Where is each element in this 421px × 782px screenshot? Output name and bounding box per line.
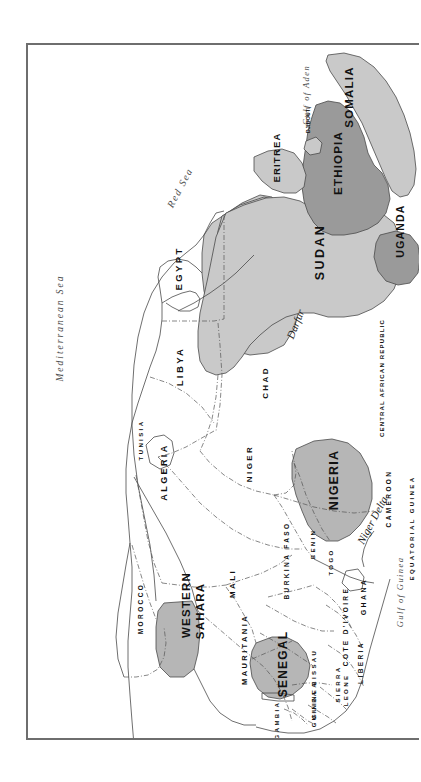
western-sahara-region [156, 601, 200, 677]
niger-river [362, 531, 374, 567]
africa-map-svg: .cl{stroke:#4a4a4a;stroke-width:0.8;} .d… [28, 45, 419, 740]
border-niger-mali [136, 475, 162, 583]
border-chad-sudan [200, 375, 218, 451]
border-burkina-ghana [266, 605, 334, 631]
border-guineabissau [284, 709, 308, 725]
mauritania-coast [194, 669, 256, 725]
border-mali-burkina [226, 587, 256, 643]
red-sea-coast [162, 291, 200, 311]
border-niger-nigeria [158, 457, 302, 549]
cameroon-coast [314, 559, 374, 583]
equatorial-guinea-shape [342, 569, 364, 591]
border-niger-benin [226, 555, 292, 585]
border-libya-algeria [150, 377, 214, 423]
border-niger-burkina [162, 583, 226, 587]
border-liberia-cotedivoire [320, 687, 348, 711]
map-canvas: .cl{stroke:#4a4a4a;stroke-width:0.8;} .d… [28, 45, 419, 740]
tunisia-shape [146, 435, 174, 469]
eritrea-region [254, 149, 306, 193]
border-guinea-sierraleone [292, 709, 316, 725]
nigeria-region [292, 439, 372, 541]
border-chad-niger [158, 431, 214, 457]
border-togo-benin [316, 587, 352, 629]
border-algeria-mali [134, 477, 198, 611]
border-chad-car [200, 451, 274, 495]
map-page: .cl{stroke:#4a4a4a;stroke-width:0.8;} .d… [0, 0, 421, 782]
border-mauritania-mali [198, 611, 252, 657]
border-cotedivoire-ghana [328, 645, 364, 687]
border-ghana-togo [326, 605, 362, 647]
border-burkina-benin [268, 585, 314, 597]
map-frame: .cl{stroke:#4a4a4a;stroke-width:0.8;} .d… [26, 43, 419, 740]
border-sierraleone-liberia [308, 705, 336, 723]
